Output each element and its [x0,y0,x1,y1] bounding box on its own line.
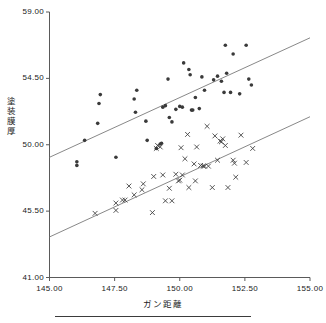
chart-root: 59.0054.5050.0045.5041.00 145.00147.5015… [0,0,326,323]
y-tick-label: 41.00 [8,273,44,282]
x-axis-title: ガン距離 [143,297,183,309]
data-points [75,43,255,215]
x-tick-label: 145.00 [28,284,72,293]
y-tick-label: 54.50 [8,73,44,82]
y-axis-title-char: 塗 [6,96,17,106]
x-tick-label: 155.00 [288,284,326,293]
y-tick-label: 45.50 [8,206,44,215]
fit-lines [50,38,311,237]
legend-box-top-rule [55,316,251,317]
y-axis-title-char: 装 [6,106,17,116]
y-axis-title: 塗装膜厚 [6,96,17,136]
scatter-plot-canvas [0,0,326,323]
y-tick-label: 59.00 [8,7,44,16]
y-axis-title-char: 厚 [6,126,17,136]
y-tick-label: 50.00 [8,140,44,149]
y-axis-title-char: 膜 [6,116,17,126]
axis-ticks [46,12,310,281]
x-tick-label: 152.50 [223,284,267,293]
axis-lines [49,12,310,278]
x-tick-label: 150.00 [158,284,202,293]
x-tick-label: 147.50 [93,284,137,293]
